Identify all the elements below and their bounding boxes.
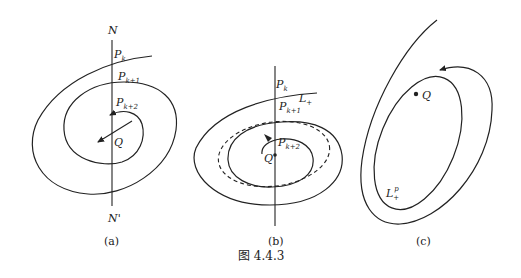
figure-caption: 图 4.4.3 [238, 249, 284, 263]
limit-cycle-l-plus-p [357, 64, 480, 222]
label-l-plus: L [298, 92, 306, 105]
svg-text:L+: L+ [298, 92, 312, 107]
spiral-trajectory [194, 93, 342, 205]
svg-text:Pk+2: Pk+2 [115, 96, 139, 111]
svg-text:Pk+1: Pk+1 [278, 100, 301, 115]
svg-text:Pk: Pk [275, 78, 288, 93]
panel-c: Q L+p (c) [357, 20, 493, 248]
svg-text:L+p: L+p [385, 185, 399, 202]
svg-text:Pk+2: Pk+2 [277, 136, 301, 151]
figure-canvas: N N' Pk Pk+1 Pk+2 Q (a) Pk L+ Pk+1 Pk+2 … [0, 0, 521, 278]
spiral-trajectory [361, 20, 492, 224]
label-q: Q [422, 89, 431, 102]
panel-b: Pk L+ Pk+1 Pk+2 Q (b) 图 4.4.3 [194, 66, 342, 263]
label-l-plus-p: L [385, 187, 393, 200]
arrow-head-icon [264, 134, 272, 142]
caption-b: (b) [268, 235, 284, 248]
svg-text:Pk: Pk [113, 48, 126, 63]
label-q: Q [264, 152, 273, 165]
label-n: N [107, 24, 118, 37]
label-q: Q [114, 136, 123, 149]
point-q [414, 92, 418, 96]
caption-c: (c) [416, 235, 431, 248]
caption-a: (a) [104, 235, 119, 248]
label-n-prime: N' [107, 212, 121, 225]
panel-a: N N' Pk Pk+1 Pk+2 Q (a) [32, 24, 176, 248]
svg-text:Pk+1: Pk+1 [117, 70, 140, 85]
spiral-trajectory [32, 56, 176, 194]
point-q [273, 153, 277, 157]
